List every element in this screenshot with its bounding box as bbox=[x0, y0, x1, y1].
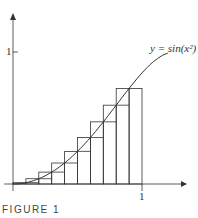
riemann-sum-figure bbox=[0, 0, 198, 218]
rectangle bbox=[129, 88, 142, 184]
rectangle bbox=[52, 163, 65, 184]
y-axis-arrow-icon bbox=[10, 13, 16, 20]
rectangle bbox=[90, 122, 103, 184]
x-axis-arrow-icon bbox=[181, 181, 187, 187]
rectangles bbox=[13, 88, 142, 184]
figure-caption: FIGURE 1 bbox=[2, 204, 60, 215]
rectangle bbox=[103, 105, 116, 184]
curve-label: y = sin(x²) bbox=[150, 42, 196, 54]
rectangle bbox=[65, 151, 78, 184]
x-tick-label: 1 bbox=[139, 190, 145, 202]
y-tick-label: 1 bbox=[6, 45, 12, 57]
